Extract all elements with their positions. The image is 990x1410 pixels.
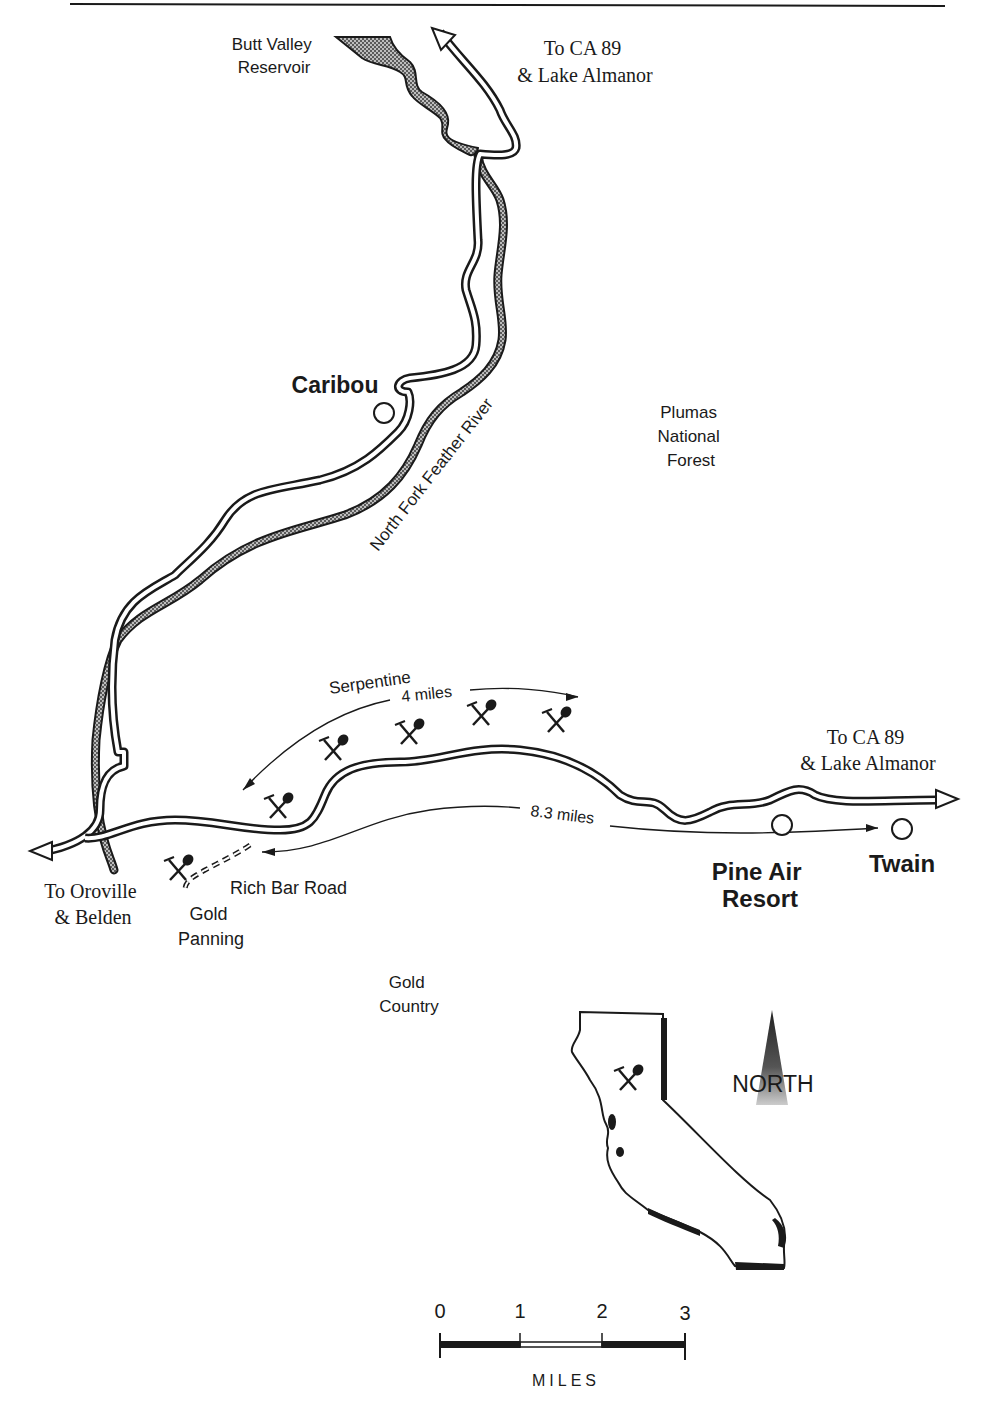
scale-bar: 0 1 2 3 MILES bbox=[434, 1300, 690, 1389]
pick-shovel-icon bbox=[395, 716, 427, 744]
label-to-ca89-east: To CA 89 & Lake Almanor bbox=[800, 726, 936, 774]
scale-tick-2: 2 bbox=[596, 1300, 607, 1322]
twain-marker[interactable] bbox=[892, 819, 912, 839]
river-north-fork-feather bbox=[95, 155, 503, 870]
top-border bbox=[70, 4, 945, 6]
label-to-oroville: To Oroville & Belden bbox=[44, 880, 141, 928]
north-label: NORTH bbox=[732, 1071, 813, 1097]
label-forest: Plumas National Forest bbox=[657, 403, 724, 470]
label-gold-panning: Gold Panning bbox=[178, 904, 244, 949]
arrow-to-oroville-icon bbox=[30, 842, 52, 860]
pick-shovel-icon bbox=[467, 697, 499, 725]
label-pine-air[interactable]: Pine Air Resort bbox=[712, 858, 808, 912]
label-gold-country: Gold Country bbox=[379, 973, 439, 1016]
scale-tick-3: 3 bbox=[679, 1302, 690, 1324]
pick-shovel-icon bbox=[542, 704, 574, 732]
pick-shovel-icon bbox=[264, 790, 296, 818]
label-to-ca89-north: To CA 89 & Lake Almanor bbox=[517, 37, 653, 86]
california-inset bbox=[572, 1012, 786, 1270]
label-caribou[interactable]: Caribou bbox=[292, 372, 379, 398]
north-arrow-icon: NORTH bbox=[732, 1010, 813, 1105]
pine-air-marker[interactable] bbox=[772, 815, 792, 835]
arrow-to-ca89-east-icon bbox=[936, 790, 958, 808]
caribou-marker[interactable] bbox=[374, 403, 394, 423]
pick-shovel-icon bbox=[319, 732, 351, 760]
scale-tick-0: 0 bbox=[434, 1300, 445, 1322]
label-serpentine: Serpentine bbox=[328, 668, 412, 698]
label-rich-bar-road: Rich Bar Road bbox=[230, 878, 347, 898]
map-canvas: Butt Valley Reservoir To CA 89 & Lake Al… bbox=[0, 0, 990, 1410]
scale-unit: MILES bbox=[532, 1372, 600, 1389]
scale-tick-1: 1 bbox=[514, 1300, 525, 1322]
label-twain[interactable]: Twain bbox=[869, 850, 935, 877]
serpentine-arc bbox=[243, 700, 390, 790]
label-route-distance: 8.3 miles bbox=[530, 802, 596, 827]
label-reservoir: Butt Valley Reservoir bbox=[232, 35, 317, 77]
